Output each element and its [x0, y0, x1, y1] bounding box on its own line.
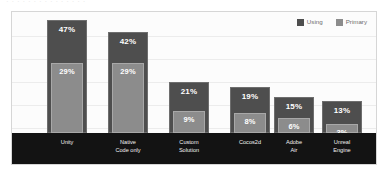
bar-value-primary-custom-solution: 9%	[174, 115, 204, 124]
legend-swatch-using	[297, 19, 304, 26]
axis-label-line: Code only	[100, 147, 156, 155]
axis-label-unity: Unity	[39, 139, 95, 147]
x-axis-band: Unity Native Code only Custom Solution C…	[12, 133, 376, 164]
legend-item-primary[interactable]: Primary	[336, 19, 367, 26]
axis-label-line: Engine	[314, 147, 370, 155]
bar-value-using-custom-solution: 21%	[170, 87, 208, 96]
bar-value-using-unity: 47%	[48, 25, 86, 34]
bar-value-using-adobe-air: 15%	[275, 102, 313, 111]
legend-label-primary: Primary	[346, 19, 367, 25]
bar-primary-unreal-engine[interactable]: 3%	[326, 124, 358, 133]
bars-layer: 47% 29% 42% 29% 21% 9%	[12, 16, 376, 133]
bar-primary-custom-solution[interactable]: 9%	[173, 111, 205, 133]
bar-primary-cocos2d[interactable]: 8%	[234, 113, 266, 133]
bar-value-using-native-code-only: 42%	[109, 37, 147, 46]
legend-swatch-primary	[336, 19, 343, 26]
bar-value-primary-native-code-only: 29%	[113, 67, 143, 76]
bar-value-primary-unity: 29%	[52, 67, 82, 76]
chart-container: Using Primary 47% 29% 42%	[11, 11, 377, 165]
bar-value-primary-adobe-air: 6%	[279, 122, 309, 131]
axis-label-unreal-engine: Unreal Engine	[314, 139, 370, 154]
axis-label-line: Native	[100, 139, 156, 147]
axis-label-line: Unreal	[314, 139, 370, 147]
chart-legend: Using Primary	[297, 19, 367, 26]
legend-item-using[interactable]: Using	[297, 19, 323, 26]
bar-primary-unity[interactable]: 29%	[51, 63, 83, 133]
clipped-header-text: · · · · · · · · · · · · · · ·	[6, 0, 336, 6]
axis-label-custom-solution: Custom Solution	[161, 139, 217, 154]
bar-value-using-unreal-engine: 13%	[323, 106, 361, 115]
bar-value-primary-cocos2d: 8%	[235, 117, 265, 126]
plot-area: Using Primary 47% 29% 42%	[12, 12, 376, 164]
legend-label-using: Using	[307, 19, 323, 25]
bar-value-using-cocos2d: 19%	[231, 92, 269, 101]
axis-label-line: Unity	[39, 139, 95, 147]
bar-primary-native-code-only[interactable]: 29%	[112, 63, 144, 133]
axis-label-line: Solution	[161, 147, 217, 155]
axis-label-native-code-only: Native Code only	[100, 139, 156, 154]
axis-label-line: Custom	[161, 139, 217, 147]
bar-primary-adobe-air[interactable]: 6%	[278, 118, 310, 133]
